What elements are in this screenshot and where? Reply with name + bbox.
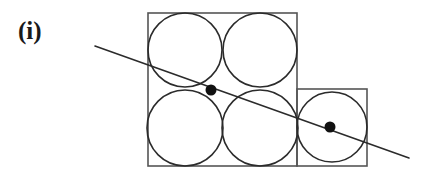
circle-top-right xyxy=(223,13,297,87)
tangency-point-lower xyxy=(325,122,336,133)
circle-bottom-right xyxy=(222,90,298,166)
circle-top-left xyxy=(148,13,222,87)
tangency-point-upper xyxy=(206,85,217,96)
secant-line xyxy=(95,46,409,158)
circle-bottom-left xyxy=(147,90,223,166)
figure-container: (i) xyxy=(0,0,429,180)
large-square xyxy=(148,13,297,166)
packing-diagram xyxy=(0,0,429,180)
